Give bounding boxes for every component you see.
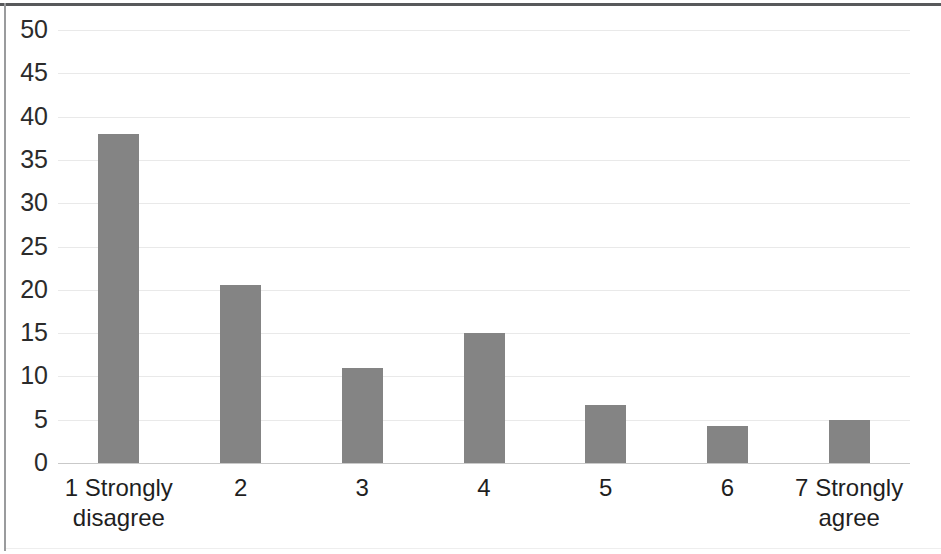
y-tick-label: 5 xyxy=(0,407,48,432)
y-tick-label: 20 xyxy=(0,277,48,302)
x-tick-label: 1 Stronglydisagree xyxy=(60,473,178,533)
x-tick-label-line: 2 xyxy=(182,473,300,503)
x-tick-label-line: agree xyxy=(790,503,908,533)
x-tick-label: 5 xyxy=(547,473,665,503)
x-axis-tick-labels: 1 Stronglydisagree234567 Stronglyagree xyxy=(58,473,910,551)
chart-border-top xyxy=(0,3,941,6)
y-tick-label: 50 xyxy=(0,17,48,42)
y-tick-label: 40 xyxy=(0,104,48,129)
y-tick-label: 45 xyxy=(0,60,48,85)
y-tick-label: 0 xyxy=(0,450,48,475)
x-tick-label-line: 5 xyxy=(547,473,665,503)
y-tick-label: 25 xyxy=(0,234,48,259)
bar xyxy=(829,420,870,463)
bar xyxy=(220,285,261,463)
x-tick-label-line: 6 xyxy=(668,473,786,503)
x-tick-label-line: 3 xyxy=(303,473,421,503)
y-tick-label: 10 xyxy=(0,363,48,388)
bar-chart: 05101520253035404550 1 Stronglydisagree2… xyxy=(0,0,941,554)
x-tick-label: 7 Stronglyagree xyxy=(790,473,908,533)
x-tick-label-line: disagree xyxy=(60,503,178,533)
bar-series xyxy=(58,30,910,463)
x-tick-label: 3 xyxy=(303,473,421,503)
gridline-0 xyxy=(58,463,910,464)
x-tick-label: 4 xyxy=(425,473,543,503)
bar xyxy=(464,333,505,463)
x-tick-label-line: 7 Strongly xyxy=(790,473,908,503)
y-tick-label: 15 xyxy=(0,320,48,345)
bar xyxy=(707,426,748,463)
x-tick-label: 2 xyxy=(182,473,300,503)
x-tick-label-line: 1 Strongly xyxy=(60,473,178,503)
x-tick-label: 6 xyxy=(668,473,786,503)
bar xyxy=(585,405,626,463)
bar xyxy=(98,134,139,463)
y-tick-label: 35 xyxy=(0,147,48,172)
y-tick-label: 30 xyxy=(0,190,48,215)
bar xyxy=(342,368,383,463)
x-tick-label-line: 4 xyxy=(425,473,543,503)
